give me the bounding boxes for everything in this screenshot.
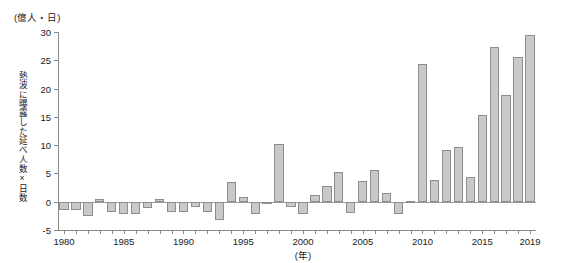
bar — [286, 202, 295, 208]
x-axis-tick — [303, 230, 304, 234]
bar — [298, 202, 307, 214]
heatwave-exposure-bar-chart: (億人・日) 熱波に曝露した延べ人数×日数 -5051015202530 198… — [0, 0, 567, 263]
zero-baseline — [58, 202, 536, 203]
x-axis-tick — [434, 230, 435, 234]
bar — [454, 147, 463, 201]
x-axis-tick — [160, 230, 161, 234]
bar — [501, 95, 510, 201]
bar — [490, 47, 499, 202]
bar — [119, 202, 128, 214]
x-axis-tick — [339, 230, 340, 234]
x-axis-tick — [136, 230, 137, 234]
x-axis-tick — [494, 230, 495, 234]
bar — [406, 201, 415, 203]
x-axis-tick — [112, 230, 113, 234]
x-axis-tick — [422, 230, 423, 234]
x-axis-tick — [470, 230, 471, 234]
x-axis-tick — [399, 230, 400, 234]
bar — [59, 202, 68, 210]
x-axis-tick — [363, 230, 364, 234]
y-axis-tick-label: -5 — [43, 225, 51, 236]
x-axis-tick — [506, 230, 507, 234]
y-axis-tick-label: 30 — [40, 27, 51, 38]
y-axis-tick-label: 0 — [46, 196, 51, 207]
y-axis-tick-label: 5 — [46, 168, 51, 179]
x-axis-tick — [148, 230, 149, 234]
bar — [525, 35, 534, 201]
bar — [155, 199, 164, 201]
y-axis-tick — [54, 230, 59, 231]
x-axis-tick — [219, 230, 220, 234]
x-axis-tick — [446, 230, 447, 234]
x-axis-tick — [64, 230, 65, 234]
x-axis-tick — [518, 230, 519, 234]
x-axis-tick — [315, 230, 316, 234]
bar — [370, 170, 379, 202]
bar — [71, 202, 80, 210]
y-axis-tick — [54, 145, 59, 146]
x-axis-tick-label: 1990 — [173, 236, 194, 247]
y-axis-tick-label: 15 — [40, 111, 51, 122]
bar — [83, 202, 92, 216]
bar — [442, 150, 451, 202]
bar — [251, 202, 260, 214]
y-axis-title: 熱波に曝露した延べ人数×日数 — [14, 52, 27, 222]
x-axis-tick-label: 1995 — [233, 236, 254, 247]
x-axis-tick — [195, 230, 196, 234]
bar — [131, 202, 140, 214]
x-axis-tick — [172, 230, 173, 234]
x-axis-tick — [482, 230, 483, 234]
x-axis-tick — [327, 230, 328, 234]
x-axis-tick-label: 1985 — [113, 236, 134, 247]
x-axis-tick — [183, 230, 184, 234]
bar — [215, 202, 224, 220]
x-axis-tick-label: 1980 — [53, 236, 74, 247]
y-axis-tick — [54, 202, 59, 203]
x-axis-tick — [279, 230, 280, 234]
x-axis-tick — [207, 230, 208, 234]
x-axis-unit-label: (年) — [295, 248, 311, 262]
bar — [478, 115, 487, 202]
x-axis-tick-label: 2015 — [472, 236, 493, 247]
x-axis-tick — [411, 230, 412, 234]
x-axis-tick — [530, 230, 531, 234]
bar — [227, 182, 236, 201]
bar — [239, 197, 248, 202]
bar — [203, 202, 212, 212]
bar — [191, 202, 200, 208]
bar — [466, 177, 475, 202]
bar — [382, 193, 391, 202]
bar — [358, 181, 367, 201]
x-axis-tick — [375, 230, 376, 234]
x-axis-tick — [458, 230, 459, 234]
x-axis-tick — [255, 230, 256, 234]
bar — [167, 202, 176, 212]
y-axis-tick — [54, 173, 59, 174]
y-axis-tick — [54, 32, 59, 33]
bar — [107, 202, 116, 212]
bar — [95, 199, 104, 202]
unit-caption: (億人・日) — [14, 10, 60, 24]
y-axis-tick-label: 20 — [40, 83, 51, 94]
y-axis-tick — [54, 89, 59, 90]
x-axis-tick — [124, 230, 125, 234]
x-axis-tick — [100, 230, 101, 234]
y-axis-line — [58, 32, 59, 230]
bar — [310, 195, 319, 202]
y-axis-tick — [54, 60, 59, 61]
bar — [418, 64, 427, 202]
bar — [274, 144, 283, 202]
bar — [322, 186, 331, 202]
x-axis-tick — [267, 230, 268, 234]
bar — [262, 202, 271, 204]
x-axis-tick — [76, 230, 77, 234]
bar — [179, 202, 188, 212]
x-axis-tick — [243, 230, 244, 234]
x-axis-tick-label: 2005 — [352, 236, 373, 247]
x-axis-tick — [88, 230, 89, 234]
x-axis-tick — [351, 230, 352, 234]
x-axis-line — [58, 230, 536, 231]
y-axis-tick — [54, 117, 59, 118]
x-axis-tick — [387, 230, 388, 234]
bar — [143, 202, 152, 209]
